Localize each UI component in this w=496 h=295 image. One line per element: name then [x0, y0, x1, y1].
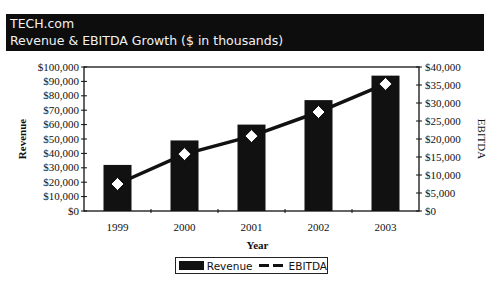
legend-revenue-label: Revenue	[207, 260, 253, 272]
right-tick-label: $30,000	[425, 97, 461, 109]
x-axis-title: Year	[247, 239, 269, 251]
revenue-swatch-icon	[179, 261, 204, 270]
revenue-bar	[372, 76, 400, 211]
left-tick-label: $30,000	[43, 161, 79, 173]
combo-chart: $0$10,000$20,000$30,000$40,000$50,000$60…	[0, 0, 496, 295]
chart-legend: Revenue EBITDA	[175, 257, 328, 274]
x-tick-label: 2000	[174, 221, 197, 233]
right-tick-label: $0	[425, 205, 437, 217]
left-tick-label: $100,000	[38, 61, 80, 73]
left-tick-label: $20,000	[43, 176, 79, 188]
right-tick-label: $20,000	[425, 133, 461, 145]
right-tick-label: $25,000	[425, 115, 461, 127]
left-tick-label: $40,000	[43, 147, 79, 159]
left-tick-label: $10,000	[43, 190, 79, 202]
right-tick-label: $40,000	[425, 61, 461, 73]
left-tick-label: $80,000	[43, 89, 79, 101]
x-tick-label: 1999	[107, 221, 130, 233]
right-tick-label: $15,000	[425, 151, 461, 163]
right-tick-label: $10,000	[425, 169, 461, 181]
left-tick-label: $60,000	[43, 118, 79, 130]
left-tick-label: $90,000	[43, 75, 79, 87]
left-tick-label: $50,000	[43, 133, 79, 145]
left-tick-label: $0	[68, 205, 80, 217]
right-tick-label: $35,000	[425, 79, 461, 91]
right-axis-title: EBITDA	[476, 119, 488, 159]
left-tick-label: $70,000	[43, 104, 79, 116]
legend-ebitda-label: EBITDA	[289, 260, 327, 272]
x-tick-label: 2003	[375, 221, 398, 233]
right-tick-label: $5,000	[425, 187, 456, 199]
x-tick-label: 2002	[308, 221, 330, 233]
left-axis-title: Revenue	[16, 119, 28, 159]
ebitda-dashed-line-icon	[259, 264, 287, 267]
x-tick-label: 2001	[241, 221, 263, 233]
